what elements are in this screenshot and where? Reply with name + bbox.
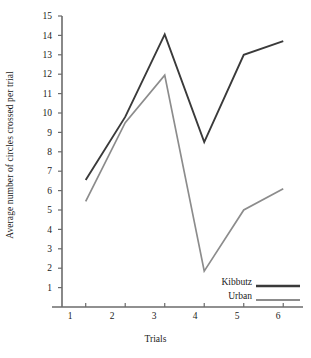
line-chart-figure: Average number of circles crossed per tr… <box>0 0 311 358</box>
series-line-kibbutz <box>86 34 284 180</box>
series-line-urban <box>86 75 284 271</box>
plot-area <box>0 0 311 358</box>
